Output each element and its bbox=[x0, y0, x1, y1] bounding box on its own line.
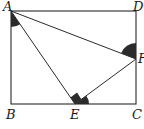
label-d: D bbox=[133, 0, 143, 13]
segment-ae bbox=[11, 11, 75, 104]
label-f: F bbox=[138, 52, 144, 65]
angle-mark-a bbox=[11, 11, 20, 27]
label-e: E bbox=[70, 108, 80, 121]
label-b: B bbox=[6, 108, 16, 121]
segment-af bbox=[11, 11, 136, 59]
rectangle-abcd bbox=[11, 11, 136, 104]
label-c: C bbox=[132, 108, 142, 121]
label-a: A bbox=[3, 0, 12, 13]
segment-ef bbox=[75, 59, 136, 104]
